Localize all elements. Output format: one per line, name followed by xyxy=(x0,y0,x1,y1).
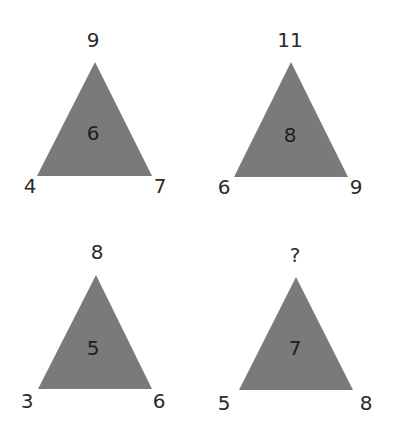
triangle-3 xyxy=(38,275,152,389)
triangle-4-right: 8 xyxy=(360,393,373,413)
triangle-3-left: 3 xyxy=(21,391,34,411)
triangle-2-right: 9 xyxy=(350,177,363,197)
triangle-3-right: 6 xyxy=(153,391,166,411)
triangle-1 xyxy=(37,62,152,176)
triangle-1-right: 7 xyxy=(154,176,167,196)
triangle-2-center: 8 xyxy=(284,125,297,145)
triangle-4-center: 7 xyxy=(289,338,302,358)
triangle-2-left: 6 xyxy=(218,177,231,197)
triangle-4-left: 5 xyxy=(218,393,231,413)
triangles-canvas xyxy=(0,0,396,427)
triangle-3-center: 5 xyxy=(87,338,100,358)
triangle-1-left: 4 xyxy=(24,176,37,196)
triangle-4-top-unknown: ? xyxy=(290,245,301,265)
triangle-3-top: 8 xyxy=(91,242,104,262)
triangle-4 xyxy=(239,277,353,390)
triangle-2 xyxy=(234,62,348,177)
triangle-1-top: 9 xyxy=(87,30,100,50)
triangle-2-top: 11 xyxy=(277,30,302,50)
triangle-1-center: 6 xyxy=(87,123,100,143)
